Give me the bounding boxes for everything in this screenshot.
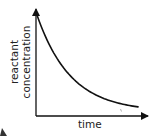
y-axis-label-line-2: concentration <box>20 17 32 107</box>
x-axis-label: time <box>78 118 102 130</box>
decay-curve <box>37 15 138 107</box>
y-axis-label-line-1: reactant <box>8 17 20 107</box>
y-axis-label: reactant concentration <box>8 17 34 107</box>
reaction-rate-diagram: reactant concentration time <box>0 0 159 136</box>
faint-mark <box>121 109 122 112</box>
corner-fragment <box>0 128 7 136</box>
